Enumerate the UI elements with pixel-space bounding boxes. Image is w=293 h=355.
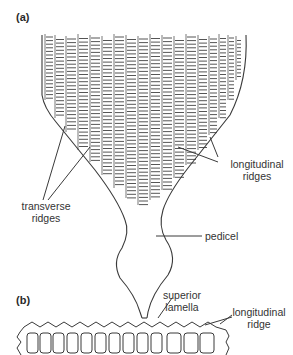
longitudinal-ridges-label: longitudinal ridges <box>222 158 292 182</box>
superior-lamella-label: superior lamella <box>156 289 208 313</box>
pedicel-label: pedicel <box>205 230 238 242</box>
transverse-ridges-label: transverse ridges <box>16 200 76 224</box>
panel-a-label: (a) <box>16 11 29 23</box>
panel-b-label: (b) <box>16 294 30 306</box>
cross-section <box>17 322 229 355</box>
longitudinal-ridge-label: longitudinal ridge <box>228 306 290 330</box>
transverse-ridge-pattern <box>45 34 241 205</box>
spore-outline <box>42 35 246 318</box>
